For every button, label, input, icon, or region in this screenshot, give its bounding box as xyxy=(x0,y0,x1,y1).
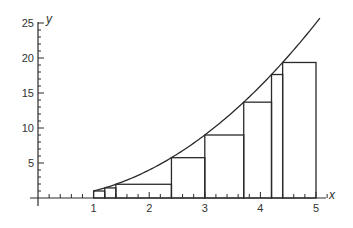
rectangle xyxy=(244,102,272,198)
x-tick-label: 3 xyxy=(202,202,208,214)
y-axis-label: y xyxy=(45,12,53,26)
rectangle xyxy=(272,75,283,198)
y-tick-label: 10 xyxy=(22,122,34,134)
curve-y-equals-x-squared xyxy=(94,18,320,191)
x-tick-label: 5 xyxy=(313,202,319,214)
rectangle xyxy=(105,188,116,198)
x-tick-label: 2 xyxy=(146,202,152,214)
axis-ticks xyxy=(38,23,327,198)
rectangle xyxy=(94,191,105,198)
x-tick-label: 4 xyxy=(257,202,263,214)
y-tick-label: 25 xyxy=(22,17,34,29)
riemann-sum-chart: 12345510152025 x y xyxy=(0,0,353,228)
y-tick-label: 20 xyxy=(22,52,34,64)
x-tick-label: 1 xyxy=(91,202,97,214)
rectangle xyxy=(171,158,204,198)
inscribed-rectangles xyxy=(94,62,316,198)
rectangle xyxy=(283,62,316,198)
x-axis-label: x xyxy=(328,188,336,202)
rectangle xyxy=(205,135,244,198)
rectangle xyxy=(116,184,172,198)
y-tick-label: 5 xyxy=(28,157,34,169)
y-tick-label: 15 xyxy=(22,87,34,99)
axes: 12345510152025 x y xyxy=(22,12,336,214)
